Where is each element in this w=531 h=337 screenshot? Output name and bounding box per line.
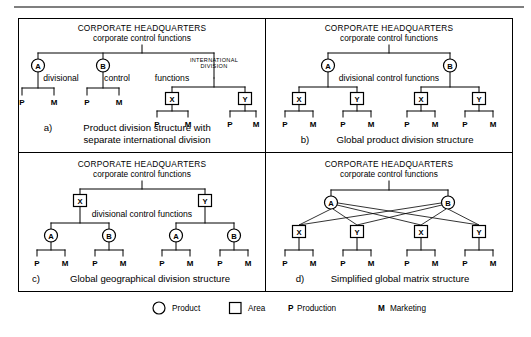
panel-a-leaf-8: M: [253, 120, 260, 129]
panel-a-leaf-7: P: [227, 120, 233, 129]
panel-b-leaf-3: P: [340, 120, 346, 129]
panel-b-branch-x1: [285, 105, 313, 117]
panel-c-leaf-8: M: [245, 259, 252, 268]
panel-b-node-y2-label: Y: [476, 95, 481, 104]
panel-a-node-b-label: B: [100, 62, 106, 71]
panel-c-caption-marker: c): [32, 273, 40, 284]
panel-b-hq-bus: [328, 45, 450, 59]
panel-b-leaf-5: P: [404, 120, 410, 129]
panel-a-leaf-1: P: [19, 98, 25, 107]
panel-c-branch-b2: [220, 242, 248, 256]
panel-a-international-line2: DIVISION: [201, 63, 228, 69]
panel-a-node-a-label: A: [35, 62, 41, 71]
panel-b-annot-divisional-control: divisional control functions: [339, 73, 439, 83]
panel-c-leaf-2: M: [62, 259, 69, 268]
panel-c-node-a2-label: A: [173, 232, 179, 241]
legend-area-label: Area: [248, 304, 266, 313]
panel-a-hq-subtitle: corporate control functions: [93, 33, 191, 43]
panel-c-branch-a2: [162, 242, 190, 256]
panel-a-annot-divisional: divisional: [43, 73, 78, 83]
panel-b-node-y1-label: Y: [354, 95, 359, 104]
panel-b: CORPORATE HEADQUARTERS corporate control…: [282, 23, 496, 145]
panel-b-caption-line1: Global product division structure: [336, 134, 473, 145]
panel-b-branch-y2: [465, 105, 493, 117]
organizational-structures-figure: CORPORATE HEADQUARTERS corporate control…: [0, 0, 531, 337]
legend-area-square-icon: [230, 303, 242, 314]
legend: Product Area P Production M Marketing: [153, 302, 426, 314]
panel-b-leaf-1: P: [282, 120, 288, 129]
panel-b-hq-subtitle: corporate control functions: [340, 33, 438, 43]
panel-d-leaf-7: P: [462, 259, 468, 268]
panel-d-hq-bus: [331, 181, 448, 196]
panel-c-hq-bus: [80, 181, 205, 194]
panel-b-branch-x2: [407, 105, 435, 117]
panel-c-node-y-label: Y: [202, 197, 207, 206]
panel-c-leaf-3: P: [92, 259, 98, 268]
panel-c-hq-subtitle: corporate control functions: [93, 169, 191, 179]
panel-d-hq-subtitle: corporate control functions: [340, 169, 438, 179]
panel-d-leaf-1: P: [282, 259, 288, 268]
panel-c-leaf-4: M: [120, 259, 127, 268]
panel-c-branch-b1: [95, 242, 123, 256]
panel-a-leaf-2: M: [51, 98, 58, 107]
panel-b-leaf-7: P: [462, 120, 468, 129]
panel-c-caption-line1: Global geographical division structure: [70, 273, 230, 284]
panel-a-caption-line1: Product division structure with: [83, 122, 210, 133]
panel-c-annot-divisional-control: divisional control functions: [92, 209, 192, 219]
panel-b-node-x1-label: X: [296, 95, 301, 104]
panel-b-node-b-label: B: [447, 62, 453, 71]
panel-d-link-a-y1: [333, 209, 357, 225]
panel-a-annot-functions: functions: [155, 73, 189, 83]
legend-production-label: Production: [297, 304, 337, 313]
panel-a-annot-control: control: [104, 73, 130, 83]
panel-d-branch-x1: [285, 238, 313, 256]
panel-a-node-x-label: X: [169, 95, 174, 104]
panel-b-node-a-label: A: [325, 62, 331, 71]
panel-a-branch-x: [157, 105, 188, 117]
panel-d-leaf-8: M: [490, 259, 497, 268]
panel-d-leaf-3: P: [340, 259, 346, 268]
panel-d-leaf-5: P: [404, 259, 410, 268]
panel-b-leaf-6: M: [432, 120, 439, 129]
panel-d-node-y2-label: Y: [476, 228, 481, 237]
panel-c-node-b2-label: B: [231, 232, 237, 241]
legend-marketing-label: Marketing: [390, 304, 426, 313]
panel-d-branch-y1: [343, 238, 371, 256]
panel-b-branch-y1: [343, 105, 371, 117]
panel-d-branch-y2: [465, 238, 493, 256]
panel-d-node-y1-label: Y: [354, 228, 359, 237]
panel-c-node-b1-label: B: [106, 232, 112, 241]
panel-c-leaf-6: M: [187, 259, 194, 268]
panel-d-link-b-x2: [421, 209, 446, 225]
panel-d-hq-title: CORPORATE HEADQUARTERS: [325, 159, 454, 169]
panel-b-leaf-2: M: [310, 120, 317, 129]
legend-marketing-key: M: [378, 304, 385, 313]
panel-c-node-a1-label: A: [48, 232, 54, 241]
panel-d-caption-marker: d): [296, 273, 305, 284]
legend-product-circle-icon: [153, 302, 165, 314]
panel-a: CORPORATE HEADQUARTERS corporate control…: [19, 23, 259, 145]
panel-a-caption-line2: separate international division: [84, 134, 211, 145]
panel-a-leaf-3: P: [84, 98, 90, 107]
panel-d-leaf-4: M: [368, 259, 375, 268]
panel-b-leaf-4: M: [368, 120, 375, 129]
panel-a-caption-marker: a): [44, 122, 53, 133]
panel-c-hq-title: CORPORATE HEADQUARTERS: [78, 159, 207, 169]
panel-d-node-b-label: B: [445, 199, 451, 208]
panel-b-hq-title: CORPORATE HEADQUARTERS: [325, 23, 454, 33]
panel-d-node-a-label: A: [328, 199, 334, 208]
panel-c-leaf-1: P: [34, 259, 40, 268]
panel-d-leaf-2: M: [310, 259, 317, 268]
panel-a-node-y-label: Y: [242, 95, 247, 104]
legend-product-label: Product: [172, 304, 201, 313]
panel-d: CORPORATE HEADQUARTERS corporate control…: [282, 159, 496, 284]
legend-production-key: P: [288, 304, 294, 313]
panel-a-branch-y: [230, 105, 256, 117]
panel-b-node-x2-label: X: [418, 95, 423, 104]
panel-b-caption-marker: b): [301, 134, 310, 145]
panel-d-node-x1-label: X: [296, 228, 301, 237]
panel-d-leaf-6: M: [432, 259, 439, 268]
panel-b-leaf-8: M: [490, 120, 497, 129]
panel-c-branch-a1: [37, 242, 65, 256]
panel-a-hq-title: CORPORATE HEADQUARTERS: [78, 23, 207, 33]
